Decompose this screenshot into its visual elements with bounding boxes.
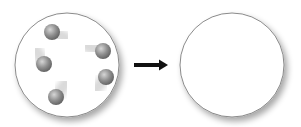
container-circle-right: [180, 13, 284, 117]
particle: [36, 56, 52, 72]
particle: [95, 43, 111, 59]
right-container: [180, 13, 284, 117]
particle: [48, 89, 64, 105]
arrow-right-icon: [134, 60, 168, 71]
particle: [44, 24, 60, 40]
container-circle-left: [15, 13, 119, 117]
diagram-canvas: [0, 0, 301, 127]
particle: [98, 69, 114, 85]
left-container: [15, 13, 119, 117]
